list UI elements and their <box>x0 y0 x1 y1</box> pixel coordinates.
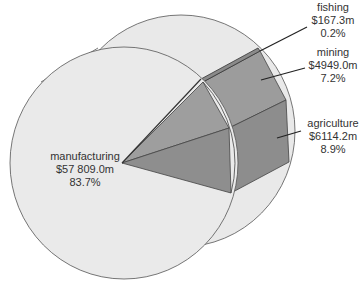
label-manufacturing-name: manufacturing <box>30 150 140 163</box>
label-agriculture-name: agriculture <box>302 117 363 130</box>
label-fishing-pct: 0.2% <box>305 27 361 40</box>
label-mining: mining $4949.0m 7.2% <box>303 46 363 85</box>
label-mining-pct: 7.2% <box>303 72 363 85</box>
label-mining-value: $4949.0m <box>303 59 363 72</box>
label-agriculture-pct: 8.9% <box>302 143 363 156</box>
label-mining-name: mining <box>303 46 363 59</box>
label-manufacturing-value: $57 809.0m <box>30 163 140 176</box>
label-fishing: fishing $167.3m 0.2% <box>305 1 361 40</box>
label-agriculture: agriculture $6114.2m 8.9% <box>302 117 363 156</box>
label-fishing-name: fishing <box>305 1 361 14</box>
label-fishing-value: $167.3m <box>305 14 361 27</box>
label-manufacturing: manufacturing $57 809.0m 83.7% <box>30 150 140 189</box>
label-manufacturing-pct: 83.7% <box>30 176 140 189</box>
label-agriculture-value: $6114.2m <box>302 130 363 143</box>
